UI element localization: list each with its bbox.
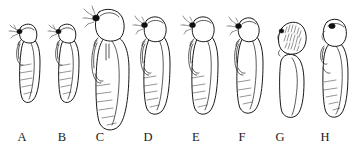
panel-label-f: F (234, 130, 250, 145)
specimen-d (133, 16, 170, 114)
panel-label-d: D (140, 130, 156, 145)
eye-marking-a (17, 29, 22, 34)
eye-marking-e (190, 22, 196, 27)
specimen-a (9, 24, 40, 102)
panel-label-c: C (92, 130, 108, 145)
specimen-g (278, 22, 307, 117)
specimen-c (83, 6, 129, 130)
eye-marking-b (56, 29, 61, 34)
eye-marking-g (279, 29, 284, 33)
specimen-b (48, 24, 79, 102)
panel-label-a: A (14, 130, 30, 145)
panel-label-h: H (317, 130, 333, 145)
panel-label-b: B (54, 130, 70, 145)
eye-marking-d (142, 22, 148, 27)
panel-label-row: A B C D E F G H (0, 130, 352, 154)
eye-marking-f (236, 23, 242, 28)
eye-marking-h (329, 23, 335, 28)
panel-label-g: G (272, 130, 288, 145)
specimen-f (227, 17, 263, 113)
eye-marking-c (93, 15, 100, 21)
specimen-e (181, 16, 218, 114)
panel-label-e: E (188, 130, 204, 145)
specimen-h (321, 19, 348, 117)
